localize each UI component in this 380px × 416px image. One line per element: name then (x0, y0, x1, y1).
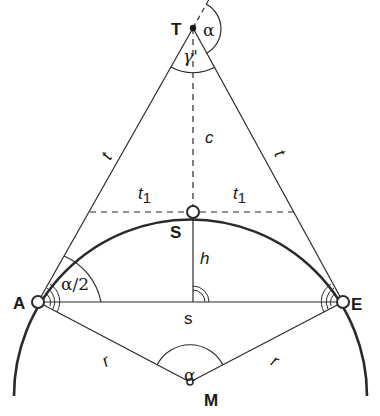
angle-arc-gamma (171, 67, 215, 73)
label-alpha-M: α (184, 365, 196, 385)
right-angle-mark (193, 286, 209, 302)
label-t-right: t (270, 147, 289, 162)
point-T-marker (190, 25, 196, 31)
label-T: T (171, 20, 182, 39)
label-A: A (13, 294, 25, 313)
tangent-line-left (38, 28, 193, 302)
label-gamma-prime: γ' (183, 46, 198, 66)
label-t-left: t (97, 148, 116, 163)
label-s-chord: s (184, 309, 193, 328)
label-alpha-half: α/2 (61, 274, 89, 294)
angle-arc-alpha-M (157, 345, 223, 365)
label-h: h (200, 249, 209, 268)
label-t1-left: t1 (138, 184, 151, 206)
label-r-left: r (99, 351, 114, 371)
tangent-line-right (193, 28, 343, 302)
radius-left (38, 302, 190, 382)
point-A-marker (32, 296, 44, 308)
label-S: S (170, 223, 181, 242)
label-E: E (351, 295, 362, 314)
label-r-right: r (268, 351, 283, 371)
label-t1-right: t1 (233, 184, 246, 206)
point-S-marker (187, 206, 199, 218)
label-c: c (205, 128, 214, 147)
label-M: M (204, 391, 218, 410)
label-alpha-apex: α (203, 20, 215, 40)
radius-right (190, 302, 343, 382)
point-E-marker (337, 296, 349, 308)
geometry-diagram: T S A E M t t c t1 t1 h s r r α γ' α/2 α (0, 0, 380, 416)
